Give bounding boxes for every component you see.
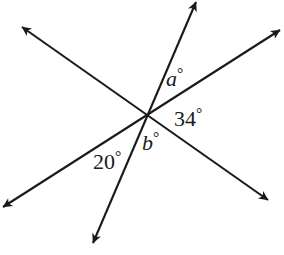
degree-symbol: ° <box>115 148 121 165</box>
diagram-canvas <box>0 0 284 255</box>
angle-label-a-text: a <box>166 66 177 91</box>
line-upper-left-to-lower-right <box>22 27 268 200</box>
degree-symbol: ° <box>153 129 159 146</box>
angle-label-20: 20° <box>93 149 121 173</box>
angle-label-34-text: 34 <box>174 106 196 131</box>
angle-label-b-text: b <box>142 130 153 155</box>
geometry-diagram-figure: a° 34° b° 20° <box>0 0 284 255</box>
angle-label-b: b° <box>142 130 159 154</box>
degree-symbol: ° <box>177 65 183 82</box>
degree-symbol: ° <box>196 105 202 122</box>
angle-label-20-text: 20 <box>93 149 115 174</box>
angle-label-34: 34° <box>174 106 202 130</box>
angle-label-a: a° <box>166 66 183 90</box>
